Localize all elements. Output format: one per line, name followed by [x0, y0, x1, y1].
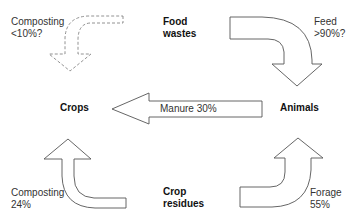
node-animals: Animals [280, 102, 319, 114]
node-food-wastes: Food wastes [163, 16, 196, 40]
label-manure: Manure 30% [160, 103, 217, 115]
label-composting-food: Composting <10%? [11, 16, 64, 40]
label-forage: Forage 55% [310, 187, 342, 211]
node-crop-residues: Crop residues [163, 186, 204, 210]
feed-arrow [230, 17, 322, 86]
label-composting-residues: Composting 24% [11, 187, 64, 211]
label-feed: Feed >90%? [314, 16, 345, 40]
node-crops: Crops [60, 102, 89, 114]
